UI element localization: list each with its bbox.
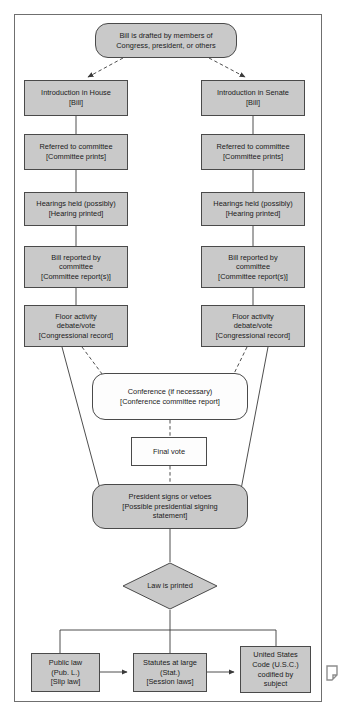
node-public-law-label: Public law (Pub. L.) [Slip law]: [34, 658, 97, 687]
node-senate-committee-label: Referred to committee [Committee prints]: [204, 142, 302, 161]
node-house-intro-label: Introduction in House [Bill]: [27, 88, 125, 107]
node-united-states-code[interactable]: United States Code (U.S.C.) codified by …: [240, 646, 311, 693]
flowchart-canvas: Bill is drafted by members of Congress, …: [0, 0, 354, 715]
node-house-committee[interactable]: Referred to committee [Committee prints]: [24, 134, 128, 170]
edge-house-floor-president: [62, 347, 103, 500]
node-house-hearings[interactable]: Hearings held (possibly) [Hearing printe…: [24, 192, 128, 226]
node-law-printed-label: Law is printed: [122, 562, 218, 610]
node-senate-intro-label: Introduction in Senate [Bill]: [204, 88, 302, 107]
node-house-floor[interactable]: Floor activity debate/vote [Congressiona…: [24, 305, 128, 347]
node-conference[interactable]: Conference (if necessary) [Conference co…: [92, 373, 248, 420]
node-final-vote[interactable]: Final vote: [131, 437, 207, 466]
edge-senate-floor-president: [239, 347, 268, 500]
node-senate-reported-label: Bill reported by committee [Committee re…: [204, 253, 302, 282]
node-final-vote-label: Final vote: [134, 447, 204, 457]
edge-origin-senate: [209, 58, 245, 77]
node-senate-reported[interactable]: Bill reported by committee [Committee re…: [201, 246, 305, 288]
node-house-intro[interactable]: Introduction in House [Bill]: [24, 80, 128, 116]
node-senate-hearings[interactable]: Hearings held (possibly) [Hearing printe…: [201, 192, 305, 226]
node-house-reported-label: Bill reported by committee [Committee re…: [27, 253, 125, 282]
node-president[interactable]: President signs or vetoes [Possible pres…: [92, 484, 248, 529]
node-law-printed[interactable]: Law is printed: [122, 562, 218, 610]
node-conference-label: Conference (if necessary) [Conference co…: [95, 387, 245, 406]
node-senate-intro[interactable]: Introduction in Senate [Bill]: [201, 80, 305, 116]
node-statutes-at-large-label: Statutes at large (Stat.) [Session laws]: [136, 658, 204, 687]
node-senate-hearings-label: Hearings held (possibly) [Hearing printe…: [204, 199, 302, 218]
node-senate-committee[interactable]: Referred to committee [Committee prints]: [201, 134, 305, 170]
node-house-reported[interactable]: Bill reported by committee [Committee re…: [24, 246, 128, 288]
node-house-hearings-label: Hearings held (possibly) [Hearing printe…: [27, 199, 125, 218]
node-origin-label: Bill is drafted by members of Congress, …: [98, 31, 234, 50]
node-house-committee-label: Referred to committee [Committee prints]: [27, 142, 125, 161]
node-origin[interactable]: Bill is drafted by members of Congress, …: [95, 23, 237, 58]
node-president-label: President signs or vetoes [Possible pres…: [95, 492, 245, 521]
node-statutes-at-large[interactable]: Statutes at large (Stat.) [Session laws]: [133, 653, 207, 692]
node-senate-floor-label: Floor activity debate/vote [Congressiona…: [204, 312, 302, 341]
page-curl-icon: [325, 664, 341, 682]
edge-origin-house: [88, 58, 123, 77]
node-senate-floor[interactable]: Floor activity debate/vote [Congressiona…: [201, 305, 305, 347]
node-public-law[interactable]: Public law (Pub. L.) [Slip law]: [31, 653, 100, 692]
node-united-states-code-label: United States Code (U.S.C.) codified by …: [243, 650, 308, 688]
node-house-floor-label: Floor activity debate/vote [Congressiona…: [27, 312, 125, 341]
